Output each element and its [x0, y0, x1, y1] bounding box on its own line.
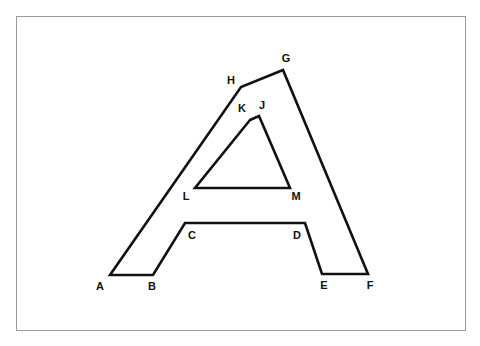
vertex-label-f: F: [367, 279, 374, 291]
vertex-label-l: L: [183, 190, 190, 202]
letter-a-diagram: A B C D E F G H J K L M: [0, 0, 480, 346]
figure-canvas: A B C D E F G H J K L M: [0, 0, 480, 346]
vertex-label-a: A: [96, 280, 104, 292]
vertex-label-group: A B C D E F G H J K L M: [96, 52, 374, 292]
vertex-label-g: G: [282, 52, 291, 64]
outer-a-outline: [110, 70, 368, 275]
vertex-label-e: E: [320, 279, 327, 291]
vertex-label-h: H: [227, 74, 235, 86]
vertex-label-j: J: [259, 99, 265, 111]
vertex-label-d: D: [293, 229, 301, 241]
vertex-label-m: M: [291, 190, 300, 202]
vertex-label-b: B: [148, 280, 156, 292]
inner-triangle-outline: [195, 116, 290, 188]
vertex-label-c: C: [188, 229, 196, 241]
vertex-label-k: K: [238, 102, 246, 114]
